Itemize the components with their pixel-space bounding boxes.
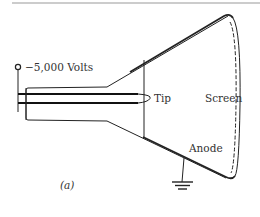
screen-label: Screen <box>205 92 243 104</box>
cathode-ray-tube-diagram: −5,000 Volts Tip Screen Anode (a) <box>0 0 260 217</box>
ground-wire <box>182 158 184 182</box>
ground-symbol-icon <box>172 182 193 189</box>
tip-label: Tip <box>154 92 171 104</box>
voltage-label: −5,000 Volts <box>25 61 93 73</box>
anode-label: Anode <box>188 142 223 154</box>
voltage-terminal <box>15 64 20 69</box>
figure-caption: (a) <box>60 179 74 191</box>
